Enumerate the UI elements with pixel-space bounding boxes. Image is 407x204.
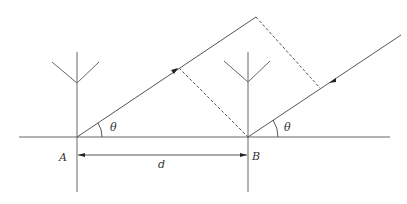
antenna-b-arm-right — [248, 61, 270, 82]
dashed-perpendicular-mid — [179, 68, 248, 137]
diagram-canvas: θ θ A B d — [0, 0, 407, 204]
interferometer-diagram: θ θ A B d — [0, 0, 407, 204]
dimension-arrow-right-icon — [240, 153, 247, 157]
antenna-a-arm-left — [52, 62, 77, 83]
antenna-b-arm-left — [224, 61, 248, 82]
node-label-a: A — [58, 151, 67, 164]
antenna-a-arm-right — [77, 62, 99, 83]
node-label-b: B — [251, 150, 260, 163]
ray-b — [248, 35, 401, 137]
dimension-arrow-left-icon — [78, 153, 85, 157]
ray-a — [77, 17, 256, 137]
angle-arc-b — [273, 120, 278, 137]
dashed-perpendicular-top — [256, 17, 320, 88]
antenna-b — [224, 52, 270, 192]
angle-label-a: θ — [110, 121, 117, 134]
baseline-label-d: d — [158, 158, 165, 171]
angle-label-b: θ — [284, 121, 291, 134]
angle-arc-a — [98, 123, 102, 137]
antenna-a — [52, 52, 99, 192]
